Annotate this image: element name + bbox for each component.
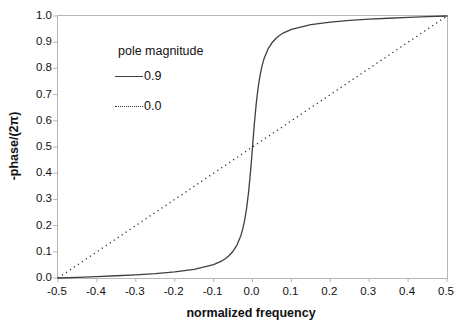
legend-entry-pole-0_0: 0.0 <box>115 94 203 118</box>
phase-response-chart: -phase/(2π) normalized frequency pole ma… <box>0 0 462 333</box>
x-tick-label: 0.0 <box>244 285 260 297</box>
x-tick-label: 0.1 <box>282 285 298 297</box>
legend-title: pole magnitude <box>118 44 203 58</box>
dotted-line-sample <box>115 106 143 107</box>
y-tick-label: 0.3 <box>4 192 52 204</box>
x-tick-label: 0.5 <box>438 285 454 297</box>
x-tick-label: -0.2 <box>164 285 184 297</box>
x-tick-label: 0.2 <box>321 285 337 297</box>
y-tick-label: 0.8 <box>4 61 52 73</box>
x-tick-label: -0.5 <box>47 285 67 297</box>
x-tick-label: -0.1 <box>203 285 223 297</box>
legend-entry-pole-0_9: 0.9 <box>115 64 203 88</box>
y-tick-label: 0.1 <box>4 245 52 257</box>
y-tick-label: 0.7 <box>4 88 52 100</box>
y-tick-label: 0.6 <box>4 114 52 126</box>
solid-line-sample <box>115 76 143 77</box>
legend-label-0_9: 0.9 <box>144 69 161 83</box>
y-tick-label: 0.0 <box>4 271 52 283</box>
y-tick-label: 0.2 <box>4 219 52 231</box>
x-tick-label: -0.4 <box>86 285 106 297</box>
legend: pole magnitude 0.9 0.0 <box>115 44 203 118</box>
x-tick-label: 0.4 <box>399 285 415 297</box>
y-tick-label: 1.0 <box>4 9 52 21</box>
y-tick-label: 0.9 <box>4 35 52 47</box>
x-tick-label: -0.3 <box>125 285 145 297</box>
legend-label-0_0: 0.0 <box>144 99 161 113</box>
y-tick-label: 0.4 <box>4 166 52 178</box>
x-axis-title: normalized frequency <box>186 306 315 320</box>
x-tick-label: 0.3 <box>360 285 376 297</box>
y-tick-label: 0.5 <box>4 140 52 152</box>
